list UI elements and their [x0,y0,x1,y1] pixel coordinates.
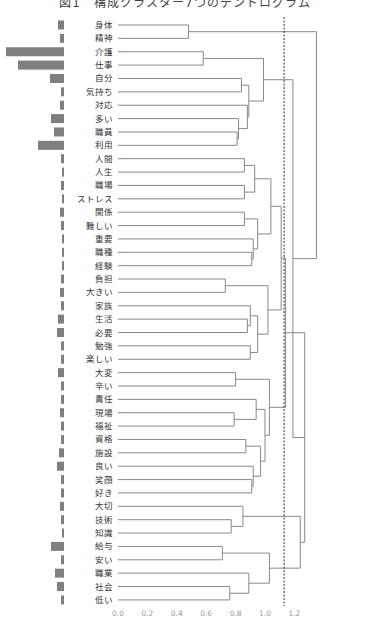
leaf-label: 資格 [95,434,113,444]
leaf-label: 職場 [95,180,113,190]
leaf-label: 難しい [86,221,113,231]
frequency-bar [61,515,64,524]
dendrogram-link [118,520,231,533]
frequency-bar [61,275,64,284]
leaf-label: 職種 [95,247,113,257]
dendrogram-link [118,185,244,198]
leaf-label: 経験 [95,261,113,271]
frequency-bar [18,61,64,70]
dendrogram-link [255,179,271,234]
dendrogram-link [118,239,253,259]
dendrogram-link [118,466,253,486]
frequency-bar [61,301,64,310]
x-tick-label: 0.8 [230,609,242,618]
leaf-label: 負担 [95,274,113,284]
frequency-bar [61,181,64,190]
frequency-bar [57,462,64,471]
x-tick-label: 0.2 [141,609,153,618]
leaf-label: 現場 [95,408,113,418]
frequency-bar [61,154,64,163]
leaf-label: 身体 [95,20,113,30]
frequency-bar [38,141,64,150]
leaf-labels: 身体精神介護仕事自分気持ち対応多い職員利用人間人生職場ストレス関係難しい重要職種… [77,20,113,605]
dendrogram-link [203,58,263,101]
leaf-label: 大切 [95,501,113,511]
leaf-label: 技術 [95,515,113,525]
leaf-label: 対応 [95,100,113,110]
frequency-bar [58,315,64,324]
dendrogram-link [118,546,222,559]
leaf-label: 仕事 [95,60,113,70]
leaf-label: 知識 [95,528,113,538]
leaf-label: 好き [95,488,113,498]
frequency-bar [61,87,64,96]
frequency-bar [61,355,64,364]
leaf-label: 自分 [95,73,113,83]
frequency-bar [50,74,64,83]
dendrogram-link [118,413,234,426]
leaf-label: 気持ち [86,87,113,97]
dendrogram-link [250,316,257,353]
frequency-bar [61,395,64,404]
leaf-label: 給与 [95,541,113,551]
dendrogram-link [236,379,270,435]
dendrogram-link [118,480,252,493]
dendrogram-link [118,105,247,128]
frequency-bar [51,114,64,123]
leaf-label: 家族 [95,301,113,311]
frequency-bar [60,502,64,511]
leaf-label: 多い [95,114,113,124]
frequency-bar [62,234,64,243]
dendrogram-link [118,319,247,332]
dendrogram-link [118,279,225,292]
frequency-bar [60,288,64,297]
frequency-bar [6,47,64,56]
leaf-label: 生活 [95,314,113,324]
dendrogram-link [118,506,243,526]
frequency-bar [62,168,64,177]
dendrogram-link [243,516,300,568]
leaf-label: 必要 [95,328,113,338]
frequency-bar [62,261,64,270]
leaf-label: 重要 [95,234,113,244]
frequency-bar [60,34,64,43]
dendrogram-chart: 身体精神介護仕事自分気持ち対応多い職員利用人間人生職場ストレス関係難しい重要職種… [0,0,370,619]
x-tick-label: 0.0 [112,609,124,618]
dendrogram-link [118,346,250,359]
leaf-label: 利用 [95,140,113,150]
dendrogram-link [244,165,254,192]
frequency-bar [61,341,64,350]
dendrogram-link [118,159,244,172]
dendrogram-link [118,25,189,38]
frequency-bar [61,221,64,230]
leaf-label: 人生 [95,167,113,177]
leaf-label: 辛い [95,381,113,391]
frequency-bar [54,127,64,136]
x-tick-label: 1.2 [288,609,300,618]
frequency-bar [57,582,64,591]
leaf-label: 勉強 [95,341,113,351]
frequency-bar [59,448,64,457]
leaf-label: 職員 [95,127,113,137]
leaf-label: 楽しい [86,354,113,364]
leaf-label: 良い [95,461,113,471]
dendrogram-link [118,573,249,593]
dendrogram-link [118,439,246,452]
frequency-bar [61,422,64,431]
leaf-label: 安い [95,555,113,565]
dendrogram-link [268,206,281,310]
leaf-label: 職業 [95,568,113,578]
frequency-bar [58,368,64,377]
frequency-bar [61,595,64,604]
frequency-bar [62,194,64,203]
x-tick-label: 0.6 [200,609,212,618]
dendrogram-link [118,132,237,145]
frequency-bar [61,435,64,444]
dendrogram-link [118,119,239,139]
leaf-label: 笑顔 [95,475,113,485]
dendrogram-link [118,252,252,265]
frequency-bar [61,475,64,484]
frequency-bar [62,529,64,538]
dendrogram-link [118,212,244,225]
x-axis-ticks: 0.00.20.40.60.81.01.2 [112,609,301,618]
